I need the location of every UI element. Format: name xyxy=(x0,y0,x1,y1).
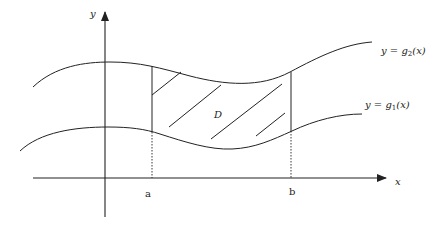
region-d-label: D xyxy=(213,109,222,120)
double-integral-region-diagram: y x a b D y = g2(x) y = g1(x) xyxy=(0,0,435,231)
lower-curve-label: y = g1(x) xyxy=(364,99,410,112)
y-axis-label: y xyxy=(89,8,96,19)
lower-curve-g1 xyxy=(20,114,362,151)
bound-b-label: b xyxy=(289,186,295,197)
x-axis-label: x xyxy=(395,176,401,187)
upper-curve-label: y = g2(x) xyxy=(380,45,426,58)
upper-curve-g2 xyxy=(33,42,372,87)
bound-a-label: a xyxy=(145,188,151,199)
